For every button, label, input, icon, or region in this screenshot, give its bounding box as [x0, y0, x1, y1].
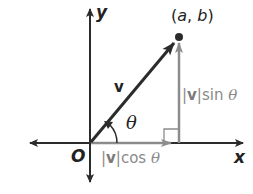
angle-label: θ: [126, 114, 137, 132]
cos-text: |cos: [116, 149, 151, 167]
v-symbol: v: [187, 86, 197, 104]
origin-label: O: [71, 148, 85, 165]
y-axis-label: y: [96, 4, 107, 21]
point-b: b: [197, 6, 207, 25]
right-angle-marker: [164, 129, 179, 143]
theta-symbol: θ: [228, 86, 237, 104]
sin-text: |sin: [197, 86, 228, 104]
vertical-component-label: |v|sin θ: [182, 88, 237, 103]
theta-symbol: θ: [151, 149, 160, 167]
point-a: a: [177, 6, 187, 25]
vector-label: v: [114, 80, 124, 95]
point-separator: ,: [187, 6, 197, 25]
x-axis-label: x: [234, 149, 245, 166]
endpoint-dot: [175, 33, 183, 41]
vector-diagram: y x O (a, b) v θ |v|sin θ |v|cos θ: [0, 0, 253, 194]
angle-arc: [110, 125, 117, 143]
v-symbol: v: [106, 149, 116, 167]
horizontal-component-label: |v|cos θ: [101, 151, 160, 166]
point-label: (a, b): [171, 8, 214, 24]
point-close-paren: ): [207, 6, 213, 25]
